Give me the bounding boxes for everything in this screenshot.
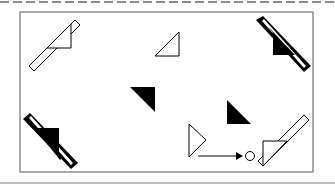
diagram-canvas xyxy=(0,0,335,185)
top-right-bar-triangle xyxy=(256,16,311,72)
pointer-triangle xyxy=(189,124,206,157)
circle-marker xyxy=(246,152,255,161)
bottom-left-bar-triangle xyxy=(23,113,78,169)
center-left-triangle xyxy=(130,87,155,112)
bottom-center-triangle-arrow xyxy=(189,124,255,161)
center-right-triangle xyxy=(227,100,251,124)
top-left-bar-triangle xyxy=(29,20,80,71)
arrow-head-icon xyxy=(236,152,243,160)
top-center-triangle xyxy=(155,32,179,56)
bottom-right-bar-triangle xyxy=(258,115,309,166)
